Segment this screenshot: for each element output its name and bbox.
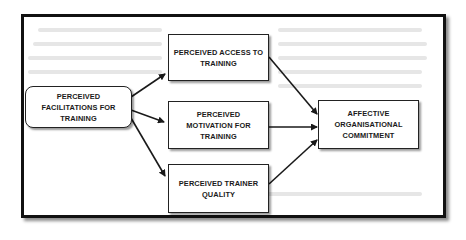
arrow-access-to-commitment <box>269 57 317 114</box>
node-label: PERCEIVED MOTIVATION FOR TRAINING <box>186 109 250 142</box>
node-perceived-motivation: PERCEIVED MOTIVATION FOR TRAINING <box>168 101 269 149</box>
node-label: AFFECTIVE ORGANISATIONAL COMMITMENT <box>334 108 402 141</box>
arrow-facilitations-to-trainer <box>131 118 165 176</box>
arrow-trainer-to-commitment <box>269 140 317 184</box>
node-affective-commitment: AFFECTIVE ORGANISATIONAL COMMITMENT <box>318 100 419 149</box>
node-perceived-trainer-quality: PERCEIVED TRAINER QUALITY <box>168 164 269 213</box>
node-label: PERCEIVED TRAINER QUALITY <box>179 178 258 200</box>
node-perceived-access: PERCEIVED ACCESS TO TRAINING <box>168 34 269 81</box>
arrow-facilitations-to-access <box>131 74 165 97</box>
node-label: PERCEIVED ACCESS TO TRAINING <box>174 47 263 69</box>
node-perceived-facilitations: PERCEIVED FACILITATIONS FOR TRAINING <box>25 86 132 128</box>
node-label: PERCEIVED FACILITATIONS FOR TRAINING <box>41 91 115 124</box>
arrow-facilitations-to-motivation <box>131 110 164 122</box>
